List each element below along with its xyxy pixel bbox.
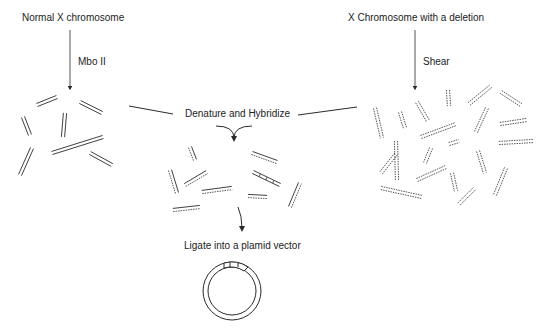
- plasmid-vector-icon: [203, 262, 261, 320]
- normal-x-label: Normal X chromosome: [22, 12, 124, 23]
- sheared-fragments: [373, 85, 533, 205]
- right-connector: [298, 107, 357, 115]
- ligate-arrow: [238, 207, 242, 228]
- mbo-fragments: [19, 96, 113, 176]
- left-connector: [129, 106, 173, 114]
- ligate-label: Ligate into a plamid vector: [184, 240, 301, 251]
- deletion-x-label: X Chromosome with a deletion: [348, 12, 484, 23]
- denature-label: Denature and Hybridize: [185, 108, 290, 119]
- mbo-label: Mbo II: [78, 56, 106, 67]
- shear-label: Shear: [423, 56, 450, 67]
- hybrid-fragments: [168, 146, 301, 211]
- diagram-canvas: [0, 0, 548, 334]
